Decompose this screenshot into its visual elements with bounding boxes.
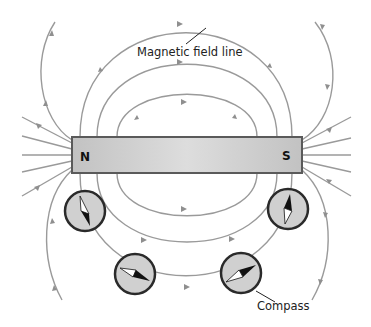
field-line-left-lower: [47, 170, 72, 300]
compass-label: Compass: [257, 299, 310, 313]
field-line-right-lower: [302, 170, 328, 300]
field-line-top-middle: [97, 64, 277, 137]
field-line-leader: [186, 28, 206, 44]
compass-left: [65, 191, 105, 231]
south-pole-label: S: [282, 149, 291, 163]
north-pole-label: N: [80, 150, 90, 164]
field-line-bottom-outer: [80, 173, 292, 276]
compass-right: [268, 189, 308, 229]
field-line-bottom-inner: [117, 173, 257, 216]
bar-magnet: [72, 137, 302, 173]
field-line-left-outer-up: [41, 22, 72, 140]
field-line-top-inner: [117, 94, 257, 137]
field-line-label: Magnetic field line: [137, 45, 243, 59]
field-line-bottom-middle: [97, 173, 277, 242]
field-line-right-outer-down: [302, 22, 333, 140]
compass-bottom-left: [115, 254, 155, 294]
compass-bottom-right: [221, 253, 261, 293]
